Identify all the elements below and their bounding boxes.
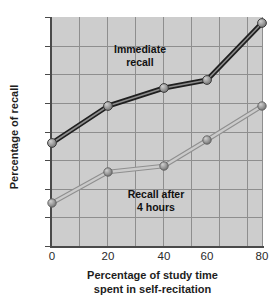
data-point-delayed: [48, 199, 56, 207]
data-point-immediate: [48, 139, 57, 148]
annotation-recall-after-4-hours: Recall after 4 hours: [113, 188, 199, 214]
data-point-delayed: [160, 162, 168, 170]
x-axis-title-line2: spent in self-recitation: [94, 283, 211, 295]
data-point-delayed: [203, 136, 211, 144]
data-point-immediate: [203, 76, 212, 85]
y-axis-title: Percentage of recall: [8, 57, 20, 217]
series-immediate-recall: [48, 19, 267, 148]
chart-figure: 80 70 60 50 40 30 20 10 0 0 20 40 60 80: [0, 0, 276, 306]
annotation-immediate-recall: Immediate recall: [97, 43, 183, 69]
data-point-immediate: [104, 102, 113, 111]
data-point-immediate: [160, 84, 169, 93]
x-axis-title-line1: Percentage of study time: [87, 269, 218, 281]
x-axis-title: Percentage of study time spent in self-r…: [40, 269, 265, 297]
data-point-immediate: [258, 19, 267, 28]
data-point-delayed: [104, 168, 112, 176]
data-point-delayed: [258, 102, 266, 110]
